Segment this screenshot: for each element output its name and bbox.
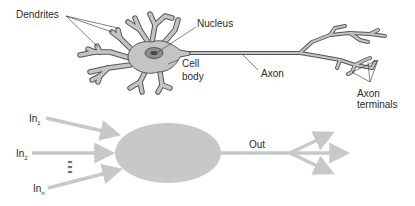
nucleolus bbox=[151, 51, 158, 55]
input-arrow-n bbox=[48, 170, 118, 188]
input-label-n: Inn bbox=[33, 183, 45, 196]
cell-body-label-line1: Cell bbox=[182, 58, 199, 69]
input-label-1: In1 bbox=[29, 113, 41, 126]
cell-body-label-line2: body bbox=[182, 71, 204, 82]
artificial-neuron-model: In1 In2 Inn Out bbox=[16, 113, 345, 196]
neuron-diagram: Dendrites Nucleus Cell body Axon Axon te… bbox=[0, 0, 415, 206]
axon bbox=[180, 26, 385, 74]
ellipsis-icon bbox=[68, 161, 73, 174]
input-label-2: In2 bbox=[16, 148, 28, 161]
output-label: Out bbox=[249, 139, 265, 150]
axon-terminals-label-line1: Axon bbox=[357, 88, 380, 99]
neuron-node bbox=[115, 123, 221, 183]
nucleus-label: Nucleus bbox=[197, 18, 233, 29]
dendrites-label: Dendrites bbox=[16, 9, 59, 20]
output-arrows bbox=[220, 134, 345, 172]
input-arrow-1 bbox=[46, 118, 116, 134]
output-arrow-up bbox=[290, 134, 330, 153]
output-arrow-down bbox=[290, 153, 330, 172]
axon-label: Axon bbox=[261, 68, 284, 79]
input-arrows bbox=[32, 118, 118, 188]
axon-terminals-label-line2: terminals bbox=[357, 99, 398, 110]
biological-neuron: Dendrites Nucleus Cell body Axon Axon te… bbox=[16, 9, 398, 110]
